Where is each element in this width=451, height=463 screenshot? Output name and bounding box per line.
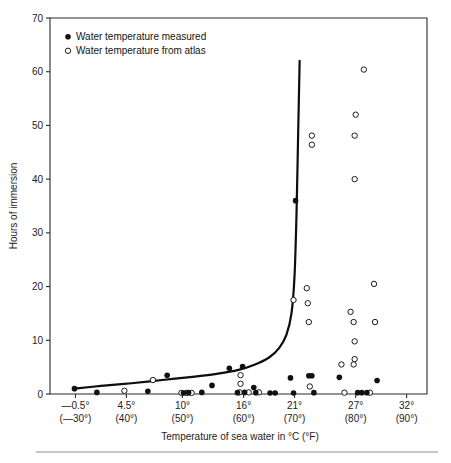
data-point-measured — [374, 378, 380, 384]
data-point-measured — [235, 390, 241, 396]
x-axis-title: Temperature of sea water in °C (°F) — [161, 431, 319, 442]
data-point-atlas — [352, 176, 357, 181]
y-axis-title: Hours of immersion — [8, 163, 19, 250]
data-point-measured — [227, 365, 233, 371]
x-tick-label-fahrenheit: (40°) — [116, 413, 138, 424]
data-point-atlas — [352, 356, 357, 361]
data-point-measured — [164, 372, 170, 378]
series-water-temperature-from-atlas — [122, 67, 378, 396]
x-tick-label-celsius: 21° — [287, 400, 302, 411]
data-point-atlas — [353, 112, 358, 117]
y-tick-label: 10 — [32, 335, 44, 346]
data-point-measured — [251, 385, 257, 391]
data-point-measured — [186, 390, 192, 396]
data-point-atlas — [352, 133, 357, 138]
plot-border — [50, 18, 427, 394]
data-point-measured — [145, 389, 151, 395]
data-point-atlas — [291, 297, 296, 302]
x-tick-label-celsius: 10° — [175, 400, 190, 411]
x-tick-label-fahrenheit: (90°) — [396, 413, 418, 424]
data-point-atlas — [309, 142, 314, 147]
data-point-atlas — [351, 362, 356, 367]
data-point-atlas — [238, 381, 243, 386]
x-tick-label-fahrenheit: (—30°) — [60, 413, 92, 424]
y-tick-label: 0 — [37, 389, 43, 400]
data-point-measured — [94, 390, 100, 396]
data-point-atlas — [305, 301, 310, 306]
y-tick-label: 70 — [32, 13, 44, 24]
data-point-atlas — [352, 339, 357, 344]
x-tick-label-fahrenheit: (80°) — [345, 413, 367, 424]
x-tick-label-fahrenheit: (60°) — [233, 413, 255, 424]
data-point-atlas — [309, 133, 314, 138]
legend-marker-measured — [65, 34, 71, 40]
series-water-temperature-measured — [72, 198, 380, 396]
data-point-atlas — [150, 377, 155, 382]
y-tick-label: 30 — [32, 227, 44, 238]
legend-label-atlas: Water temperature from atlas — [76, 45, 206, 56]
figure-container: 010203040506070 —0.5°(—30°)4.5°(40°)10°(… — [0, 0, 451, 463]
data-point-measured — [309, 373, 315, 379]
data-point-measured — [181, 390, 187, 396]
y-tick-label: 50 — [32, 120, 44, 131]
data-point-atlas — [122, 388, 127, 393]
fit-curve-group — [74, 61, 299, 389]
data-point-atlas — [361, 67, 366, 72]
data-point-measured — [199, 390, 205, 396]
data-point-measured — [311, 390, 317, 396]
fit-curve-path — [74, 61, 299, 389]
x-tick-label-celsius: 27° — [348, 400, 363, 411]
data-point-measured — [209, 383, 215, 389]
data-point-measured — [272, 390, 278, 396]
data-point-measured — [288, 375, 294, 381]
data-point-measured — [293, 198, 299, 204]
x-tick-label-celsius: 4.5° — [117, 400, 135, 411]
data-point-atlas — [342, 390, 347, 395]
data-point-measured — [240, 364, 246, 370]
y-tick-label: 40 — [32, 174, 44, 185]
scatter-chart: 010203040506070 —0.5°(—30°)4.5°(40°)10°(… — [0, 0, 451, 463]
data-point-atlas — [348, 309, 353, 314]
y-tick-label: 20 — [32, 281, 44, 292]
legend: Water temperature measuredWater temperat… — [65, 31, 206, 56]
data-point-atlas — [238, 373, 243, 378]
x-tick-label-fahrenheit: (70°) — [284, 413, 306, 424]
y-axis-ticks: 010203040506070 — [32, 13, 50, 400]
data-point-atlas — [307, 384, 312, 389]
y-tick-label: 60 — [32, 66, 44, 77]
data-point-measured — [72, 386, 78, 392]
data-point-atlas — [371, 281, 376, 286]
data-point-measured — [359, 390, 365, 396]
data-point-atlas — [372, 319, 377, 324]
data-point-atlas — [306, 319, 311, 324]
x-tick-label-celsius: 16° — [236, 400, 251, 411]
data-point-atlas — [339, 362, 344, 367]
data-point-atlas — [351, 319, 356, 324]
legend-marker-atlas — [65, 48, 70, 53]
data-point-measured — [253, 390, 259, 396]
data-point-measured — [337, 375, 343, 381]
x-tick-label-celsius: —0.5° — [62, 400, 90, 411]
data-point-atlas — [304, 285, 309, 290]
data-point-measured — [291, 390, 297, 396]
data-point-measured — [364, 390, 370, 396]
x-axis-ticks: —0.5°(—30°)4.5°(40°)10°(50°)16°(60°)21°(… — [60, 394, 418, 424]
data-point-measured — [242, 390, 248, 396]
x-tick-label-celsius: 32° — [399, 400, 414, 411]
x-tick-label-fahrenheit: (50°) — [172, 413, 194, 424]
plot-frame — [50, 18, 427, 394]
data-point-measured — [267, 390, 273, 396]
legend-label-measured: Water temperature measured — [76, 31, 206, 42]
